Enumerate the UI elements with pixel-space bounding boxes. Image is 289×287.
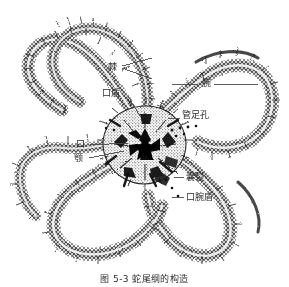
figure-caption: 图 5-3 蛇尾纲的构造: [0, 272, 289, 285]
label-spine: 棘: [108, 62, 117, 72]
label-arm: 腕: [202, 78, 211, 88]
figure-container: 棘口盾腕管足孔口颚囊裂口腕盾 图 5-3 蛇尾纲的构造: [0, 0, 289, 287]
label-bursal-slit: 囊裂: [186, 172, 204, 182]
label-oral-shield: 口盾: [102, 88, 120, 98]
label-jaw: 颚: [74, 153, 83, 163]
label-adoral-shield: 口腕盾: [186, 192, 214, 202]
label-tube-foot-pore: 管足孔: [182, 110, 210, 120]
label-mouth: 口: [76, 139, 85, 149]
brittle-star-illustration: [0, 0, 289, 287]
